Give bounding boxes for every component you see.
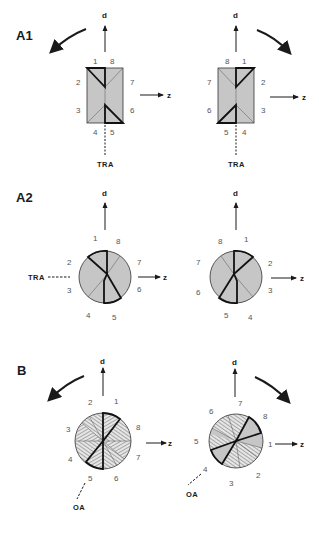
segment-number: 3 [229,479,234,488]
oa-label: OA [186,490,198,499]
segment-number: 2 [67,258,72,267]
segment-number: 8 [263,412,268,421]
circle-sections [209,414,263,468]
segment-number: 7 [207,78,212,87]
segment-number: 1 [244,235,249,244]
oa-label: OA [73,503,85,512]
segment-number: 8 [218,237,223,246]
segment-number: 5 [110,128,115,137]
z-axis-label: z [163,273,167,282]
panel-label-b: B [17,363,26,378]
b-right-diagram: d 7 6 8 5 1 4 2 3 [186,358,304,499]
segment-number: 5 [194,437,199,446]
a1-right-diagram: d 8 1 7 2 6 3 5 4 z [207,11,306,169]
segment-number: 6 [196,288,201,297]
d-axis-label: d [233,189,238,198]
b-left-diagram: d 2 1 3 8 4 7 5 6 [50,357,172,512]
segment-number: 4 [203,465,208,474]
segment-number: 6 [130,106,135,115]
segment-number: 7 [137,258,142,267]
panel-a1: A1 d 1 8 2 7 3 6 [16,11,306,169]
segment-number: 4 [248,313,253,322]
rotation-arrow-cw-icon [257,30,289,52]
z-axis-label: z [302,93,306,102]
d-axis-label: d [102,189,107,198]
tra-label: TRA [97,160,114,169]
d-axis-label: d [100,357,105,366]
segment-number: 8 [136,423,141,432]
segment-number: 7 [196,258,201,267]
z-axis-label: z [300,274,304,283]
a1-left-diagram: d 1 8 2 7 3 6 4 5 z [52,11,171,169]
segment-number: 3 [261,106,266,115]
rectangle-sections [218,68,254,123]
z-axis-label: z [167,91,171,100]
segment-number: 1 [114,397,119,406]
segment-number: 8 [225,57,230,66]
segment-number: 6 [137,285,142,294]
panel-b: B d 2 1 3 8 [17,357,304,512]
segment-number: 5 [224,128,229,137]
segment-number: 1 [242,57,247,66]
segment-number: 4 [242,128,247,137]
segment-number: 5 [88,474,93,483]
oa-dashed-line [188,474,201,485]
segment-number: 2 [261,78,266,87]
panel-label-a1: A1 [16,28,33,43]
segment-number: 6 [207,106,212,115]
segment-number: 1 [93,234,98,243]
circle-sections [210,251,262,303]
segment-number: 5 [224,311,229,320]
segment-number: 4 [68,455,73,464]
panel-label-a2: A2 [16,190,33,205]
segment-number: 7 [130,78,135,87]
segment-number: 5 [112,313,117,322]
oa-dashed-line [77,483,85,499]
segment-number: 3 [67,286,72,295]
tra-label: TRA [228,160,245,169]
segment-number: 1 [268,440,273,449]
segment-number: 7 [238,399,243,408]
segment-number: 2 [76,78,81,87]
rotation-arrow-cw-icon [255,377,288,401]
segment-number: 2 [256,471,261,480]
panel-a2: A2 d 1 8 2 7 3 6 4 5 [16,189,304,322]
segment-number: 1 [93,57,98,66]
rotation-arrow-ccw-icon [50,376,84,399]
rotation-arrow-ccw-icon [52,29,86,51]
figure-canvas: A1 d 1 8 2 7 3 6 [0,0,319,534]
tra-label: TRA [28,273,45,282]
segment-number: 4 [93,128,98,137]
z-axis-label: z [300,440,304,449]
d-axis-label: d [102,11,107,20]
rectangle-sections [87,68,123,123]
a2-left-diagram: d 1 8 2 7 3 6 4 5 TRA [28,189,167,322]
segment-number: 6 [114,474,119,483]
a2-right-diagram: d 8 1 7 2 6 3 5 4 z [196,189,304,322]
segment-number: 2 [268,259,273,268]
segment-number: 2 [88,398,93,407]
segment-number: 3 [268,286,273,295]
z-axis-label: z [168,439,172,448]
d-axis-label: d [233,11,238,20]
segment-number: 3 [76,106,81,115]
circle-sections [79,251,131,303]
segment-number: 3 [66,425,71,434]
segment-number: 7 [136,453,141,462]
segment-number: 8 [116,237,121,246]
d-axis-label: d [232,358,237,367]
circle-sections [75,413,131,469]
segment-number: 4 [86,311,91,320]
segment-number: 6 [209,407,214,416]
segment-number: 8 [110,57,115,66]
